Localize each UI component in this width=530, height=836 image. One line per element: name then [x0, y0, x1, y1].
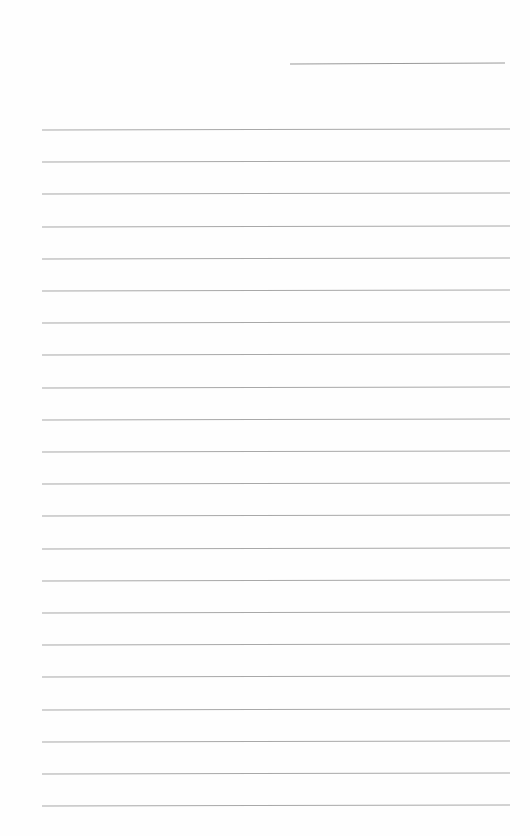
ruled-line	[42, 514, 510, 516]
ruled-line	[42, 804, 510, 806]
ruled-line	[42, 547, 510, 549]
ruled-line	[42, 192, 510, 194]
header-name-line	[290, 63, 505, 65]
ruled-line	[42, 740, 510, 742]
ruled-line	[42, 128, 510, 130]
ruled-line	[42, 353, 510, 355]
ruled-line	[42, 772, 510, 774]
ruled-line	[42, 257, 510, 259]
ruled-line	[42, 450, 510, 452]
ruled-line	[42, 675, 510, 677]
ruled-line	[42, 579, 510, 581]
ruled-line	[42, 160, 510, 162]
ruled-line	[42, 225, 510, 227]
ruled-line	[42, 708, 510, 710]
ruled-line	[42, 643, 510, 645]
ruled-line	[42, 482, 510, 484]
ruled-line	[42, 386, 510, 388]
ruled-line	[42, 418, 510, 420]
lined-paper-page	[0, 0, 530, 836]
ruled-line	[42, 321, 510, 323]
ruled-line	[42, 611, 510, 613]
ruled-line	[42, 289, 510, 291]
